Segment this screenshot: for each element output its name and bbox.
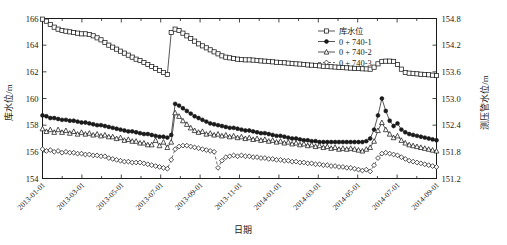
data-point-marker — [387, 151, 392, 156]
data-point-marker — [130, 129, 134, 133]
data-point-marker — [275, 134, 279, 138]
data-point-marker — [357, 140, 361, 144]
x-axis-ticks: 2013-01-012013-03-012013-05-012013-07-01… — [15, 175, 441, 212]
data-point-marker — [212, 122, 216, 126]
data-point-marker — [204, 148, 209, 153]
data-point-marker — [383, 150, 388, 155]
data-point-marker — [395, 133, 400, 138]
left-tick-label: 162 — [26, 67, 39, 77]
data-point-marker — [434, 73, 438, 77]
data-point-marker — [337, 140, 341, 144]
right-tick-label: 152.4 — [442, 120, 462, 130]
data-point-marker — [95, 123, 99, 127]
data-point-marker — [193, 114, 197, 118]
data-point-marker — [340, 146, 345, 151]
data-point-marker — [255, 155, 260, 160]
data-point-marker — [271, 133, 275, 137]
data-point-marker — [99, 123, 103, 127]
left-tick-label: 158 — [26, 120, 39, 130]
data-point-marker — [294, 140, 299, 145]
right-tick-label: 154.8 — [442, 14, 461, 24]
series-container — [40, 17, 439, 174]
data-point-marker — [79, 130, 84, 135]
data-point-marker — [360, 140, 364, 144]
data-point-marker — [185, 109, 189, 113]
data-point-marker — [325, 40, 329, 44]
data-point-marker — [224, 125, 228, 129]
data-point-marker — [379, 120, 384, 125]
data-point-marker — [64, 149, 69, 154]
x-tick-label: 2013-03-01 — [55, 180, 87, 212]
data-point-marker — [380, 97, 384, 101]
data-point-marker — [317, 143, 322, 148]
data-point-marker — [407, 132, 411, 136]
data-point-marker — [325, 163, 330, 168]
data-point-marker — [204, 120, 208, 124]
legend-item-3[interactable]: 0 + 740-2 — [318, 48, 372, 57]
data-point-marker — [388, 119, 392, 123]
data-point-marker — [111, 126, 115, 130]
data-point-marker — [232, 126, 236, 130]
data-point-marker — [376, 113, 380, 117]
series-1 — [40, 17, 438, 78]
data-point-marker — [173, 110, 178, 115]
data-point-marker — [356, 167, 361, 172]
data-point-marker — [208, 121, 212, 125]
right-tick-label: 154.2 — [442, 40, 461, 50]
data-point-marker — [376, 156, 381, 161]
legend-item-1[interactable]: 库水位 — [318, 26, 363, 36]
data-point-marker — [395, 62, 399, 66]
data-point-marker — [259, 131, 263, 135]
data-point-marker — [348, 146, 353, 151]
legend-item-2[interactable]: 0 + 740-1 — [318, 38, 372, 47]
data-point-marker — [422, 162, 427, 167]
data-point-marker — [150, 133, 154, 137]
data-point-marker — [306, 138, 310, 142]
data-point-marker — [372, 128, 376, 132]
data-point-marker — [115, 127, 119, 131]
data-point-marker — [309, 142, 314, 147]
data-point-marker — [87, 131, 92, 136]
data-point-marker — [44, 114, 48, 118]
data-point-marker — [262, 156, 267, 161]
x-tick-label: 2013-09-01 — [173, 180, 205, 212]
data-point-marker — [161, 140, 166, 145]
data-point-marker — [333, 164, 338, 169]
data-point-marker — [196, 146, 201, 151]
data-point-marker — [48, 116, 52, 120]
data-point-marker — [391, 152, 396, 157]
data-point-marker — [161, 165, 166, 170]
data-point-marker — [376, 128, 381, 133]
data-point-marker — [384, 109, 388, 113]
data-point-marker — [325, 144, 330, 149]
data-point-marker — [134, 130, 138, 134]
data-point-marker — [40, 126, 45, 131]
data-point-marker — [278, 157, 283, 162]
data-point-marker — [403, 130, 407, 134]
data-point-marker — [216, 123, 220, 127]
data-point-marker — [372, 163, 377, 168]
y-axis-label-left: 库水位/m — [2, 73, 15, 133]
right-tick-label: 151.8 — [442, 147, 461, 157]
data-point-marker — [71, 150, 76, 155]
data-point-marker — [192, 145, 197, 150]
data-point-marker — [173, 147, 178, 152]
data-point-marker — [145, 162, 150, 167]
data-point-marker — [263, 131, 267, 135]
data-point-marker — [324, 29, 328, 33]
data-point-marker — [419, 135, 423, 139]
data-point-marker — [341, 140, 345, 144]
data-point-marker — [76, 120, 80, 124]
left-tick-label: 160 — [26, 94, 39, 104]
data-point-marker — [239, 153, 244, 158]
data-point-marker — [177, 104, 181, 108]
data-point-marker — [91, 122, 95, 126]
data-point-marker — [64, 128, 69, 133]
data-point-marker — [317, 162, 322, 167]
data-point-marker — [126, 159, 131, 164]
data-point-marker — [247, 154, 252, 159]
data-point-marker — [216, 165, 221, 170]
data-point-marker — [95, 153, 100, 158]
data-point-marker — [251, 129, 255, 133]
data-point-marker — [294, 159, 299, 164]
